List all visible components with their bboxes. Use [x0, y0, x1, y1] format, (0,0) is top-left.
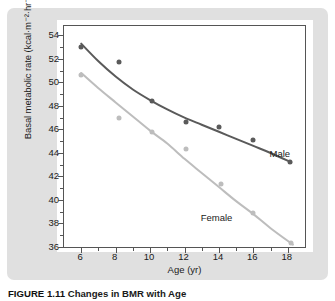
y-axis-tick-label: 36	[33, 241, 59, 252]
series-label-male: Male	[270, 148, 291, 159]
y-axis-tick-label: 42	[33, 170, 59, 181]
x-axis-tick-label: 10	[134, 251, 164, 262]
y-axis-major-tick	[58, 153, 64, 154]
x-axis-tick-label: 18	[272, 251, 302, 262]
y-axis-major-tick	[58, 129, 64, 130]
x-axis-tick-label: 16	[237, 251, 267, 262]
y-axis-major-tick	[58, 223, 64, 224]
x-axis-tick-label: 12	[169, 251, 199, 262]
data-point-male	[216, 125, 221, 130]
plot-axes-frame	[63, 25, 306, 248]
y-axis-tick-label: 38	[33, 217, 59, 228]
y-axis-major-tick	[58, 200, 64, 201]
data-point-female	[251, 210, 256, 215]
series-label-female: Female	[201, 212, 233, 223]
y-axis-tick-label: 52	[33, 52, 59, 63]
series-plot-svg	[64, 26, 305, 247]
y-axis-minor-tick	[60, 94, 64, 95]
data-point-female	[289, 241, 294, 246]
y-axis-major-tick	[58, 35, 64, 36]
data-point-male	[149, 99, 154, 104]
y-axis-major-tick	[58, 176, 64, 177]
y-axis-major-tick	[58, 82, 64, 83]
series-fit-curve-female	[81, 73, 293, 245]
data-point-male	[79, 45, 84, 50]
y-axis-tick-label: 46	[33, 123, 59, 134]
y-axis-tick-labels: 36384042444648505254	[33, 0, 59, 301]
y-axis-title: Basal metabolic rate (kcal·m⁻²·hr⁻¹)	[22, 0, 33, 166]
y-axis-tick-label: 40	[33, 193, 59, 204]
data-point-female	[79, 73, 84, 78]
x-axis-title: Age (yr)	[63, 264, 306, 275]
data-point-female	[184, 147, 189, 152]
y-axis-major-tick	[58, 247, 64, 248]
y-axis-major-tick	[58, 106, 64, 107]
y-axis-minor-tick	[60, 71, 64, 72]
y-axis-tick-label: 48	[33, 99, 59, 110]
y-axis-tick-label: 44	[33, 146, 59, 157]
figure-caption-number: FIGURE 1.11	[8, 288, 65, 299]
figure-caption-title: Changes in BMR with Age	[68, 288, 187, 299]
y-axis-minor-tick	[60, 47, 64, 48]
data-point-female	[149, 129, 154, 134]
y-axis-minor-tick	[60, 141, 64, 142]
y-axis-major-tick	[58, 59, 64, 60]
data-point-male	[117, 60, 122, 65]
y-axis-tick-label: 50	[33, 76, 59, 87]
data-point-male	[287, 160, 292, 165]
x-axis-tick-label: 6	[65, 251, 95, 262]
figure-caption: FIGURE 1.11 Changes in BMR with Age	[8, 288, 328, 299]
x-axis-tick-labels: 681012141618	[63, 251, 306, 265]
y-axis-minor-tick	[60, 212, 64, 213]
y-axis-tick-label: 54	[33, 29, 59, 40]
data-point-male	[184, 120, 189, 125]
x-axis-tick-label: 8	[100, 251, 130, 262]
y-axis-minor-tick	[60, 118, 64, 119]
series-fit-curve-male	[81, 44, 291, 163]
data-point-male	[251, 138, 256, 143]
data-point-female	[117, 115, 122, 120]
y-axis-minor-tick	[60, 165, 64, 166]
x-axis-tick-label: 14	[203, 251, 233, 262]
data-point-female	[218, 181, 223, 186]
y-axis-minor-tick	[60, 188, 64, 189]
y-axis-minor-tick	[60, 235, 64, 236]
